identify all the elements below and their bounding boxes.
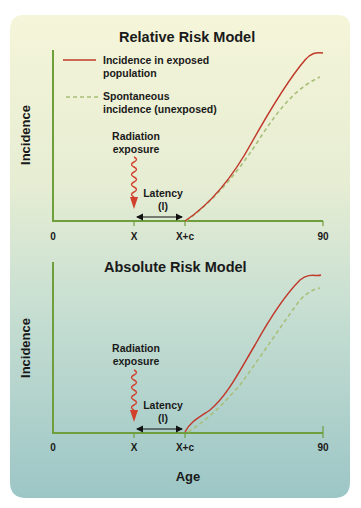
legend-exposed-label-2: population [103, 67, 157, 79]
exposure-label-2: exposure [113, 355, 160, 367]
exposure-label-2: exposure [113, 143, 160, 155]
legend-spontaneous-label-2: incidence (unexposed) [103, 103, 217, 115]
panel-background [10, 15, 350, 498]
chart-title: Absolute Risk Model [104, 259, 247, 275]
latency-label-2: (l) [158, 412, 168, 424]
latency-label-1: Latency [143, 399, 183, 411]
x-tick-0: 0 [50, 442, 56, 453]
x-tick-0: 0 [50, 231, 56, 242]
x-tick-90: 90 [317, 442, 329, 453]
x-tick-xc: X+c [176, 442, 195, 453]
x-axis-title: Age [176, 469, 201, 484]
latency-label-1: Latency [143, 187, 183, 199]
exposure-label-1: Radiation [112, 130, 160, 142]
x-tick-xc: X+c [176, 231, 195, 242]
y-axis-title: Incidence [18, 105, 33, 165]
x-tick-90: 90 [317, 231, 329, 242]
x-tick-x: X [131, 231, 138, 242]
legend-exposed-label-1: Incidence in exposed [103, 54, 209, 66]
latency-label-2: (l) [158, 200, 168, 212]
exposure-label-1: Radiation [112, 342, 160, 354]
legend-spontaneous-label-1: Spontaneous [103, 90, 170, 102]
y-axis-title: Incidence [18, 318, 33, 378]
x-tick-x: X [131, 442, 138, 453]
chart-title: Relative Risk Model [119, 29, 255, 45]
risk-model-figure: Relative Risk Model Incidence 0 X X+c 90… [0, 0, 361, 508]
